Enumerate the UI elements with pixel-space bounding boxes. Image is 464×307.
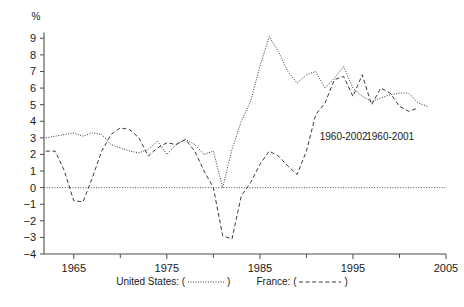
series-line-france: [46, 75, 418, 239]
x-tick-label: 2005: [434, 262, 458, 274]
y-tick-label: 9: [30, 32, 36, 44]
y-axis-unit-label: %: [32, 11, 41, 22]
y-tick-label: 1: [30, 165, 36, 177]
legend-swatch-france-icon: [296, 278, 344, 286]
legend-close-united-states: ): [227, 276, 230, 287]
y-tick-label: 4: [30, 115, 36, 127]
y-tick-label: 2: [30, 148, 36, 160]
y-tick-label: −3: [23, 231, 36, 243]
y-tick-label: 8: [30, 49, 36, 61]
chart-annotation-label: 1960-2001: [366, 131, 414, 142]
chart-legend: United States: ( ) France: ( ): [0, 276, 464, 287]
legend-swatch-united-states-icon: [185, 278, 227, 286]
legend-close-france: ): [344, 276, 347, 287]
y-tick-label: 3: [30, 132, 36, 144]
x-tick-label: 1985: [248, 262, 272, 274]
y-tick-label: −2: [23, 215, 36, 227]
x-tick-label: 1995: [341, 262, 365, 274]
y-tick-label: 7: [30, 65, 36, 77]
y-tick-label: 6: [30, 82, 36, 94]
x-tick-label: 1965: [62, 262, 86, 274]
legend-item-united-states: United States: ( ): [116, 276, 230, 287]
series-line-united-states: [46, 37, 428, 188]
legend-label-france: France: (: [256, 276, 296, 287]
y-tick-label: −4: [23, 248, 36, 260]
y-axis-ticks: −4−3−2−10123456789: [23, 32, 44, 260]
line-chart: −4−3−2−10123456789 19651975198519952005 …: [0, 0, 464, 307]
legend-item-france: France: ( ): [256, 276, 347, 287]
y-tick-label: 5: [30, 99, 36, 111]
x-tick-label: 1975: [155, 262, 179, 274]
chart-annotation-label: 1960-2002: [320, 131, 368, 142]
x-axis-ticks: 19651975198519952005: [62, 254, 459, 274]
chart-annotations: 1960-20021960-2001: [320, 131, 415, 142]
legend-label-united-states: United States: (: [116, 276, 185, 287]
y-tick-label: 0: [30, 182, 36, 194]
y-tick-label: −1: [23, 198, 36, 210]
chart-container: −4−3−2−10123456789 19651975198519952005 …: [0, 0, 464, 307]
